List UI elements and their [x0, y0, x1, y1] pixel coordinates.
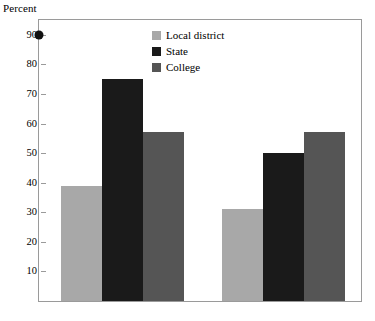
legend-swatch-icon — [152, 31, 161, 40]
y-axis-tick-label: 40 — [27, 175, 38, 191]
y-axis-tick-label: 30 — [27, 204, 38, 220]
bar — [143, 132, 184, 301]
y-axis-title: Percent — [3, 2, 37, 15]
legend-item-label: Local district — [166, 29, 224, 42]
bar-group — [222, 20, 345, 301]
legend-item-label: State — [166, 45, 188, 58]
bar-chart: Percent 908070605040302010 Local distric… — [0, 0, 375, 321]
bar — [61, 186, 102, 301]
y-axis-tick-label: 20 — [27, 234, 38, 250]
axis-dot-marker — [35, 30, 44, 39]
legend-item-label: College — [166, 61, 200, 74]
bar — [263, 153, 304, 301]
bar — [222, 209, 263, 301]
legend-swatch-icon — [152, 47, 161, 56]
y-axis-tick-label: 50 — [27, 145, 38, 161]
legend-swatch-icon — [152, 63, 161, 72]
chart-legend: Local districtStateCollege — [152, 28, 224, 76]
y-axis-tick-label: 80 — [27, 56, 38, 72]
bar — [304, 132, 345, 301]
legend-item: Local district — [152, 28, 224, 43]
legend-item: State — [152, 44, 224, 59]
y-axis-tick-label: 70 — [27, 86, 38, 102]
bar — [102, 79, 143, 301]
y-axis-tick-label: 60 — [27, 116, 38, 132]
legend-item: College — [152, 60, 224, 75]
y-axis-tick-label: 10 — [27, 263, 38, 279]
